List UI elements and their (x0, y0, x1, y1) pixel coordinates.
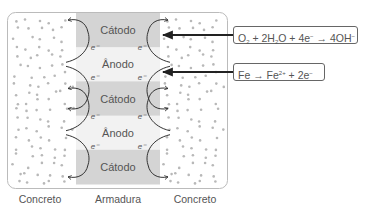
aggregate-dot (192, 27, 195, 30)
aggregate-dot (15, 107, 18, 110)
aggregate-dot (36, 94, 39, 97)
aggregate-dot (40, 136, 43, 139)
aggregate-dot (211, 127, 214, 130)
aggregate-dot (179, 92, 182, 95)
aggregate-dot (215, 103, 218, 106)
aggregate-dot (53, 36, 56, 39)
aggregate-dot (170, 64, 173, 67)
aggregate-dot (17, 103, 20, 106)
cathode-equation: O2 + 2H2O + 4e− → 4OH− (233, 26, 358, 44)
aggregate-dot (61, 175, 64, 178)
aggregate-dot (15, 94, 18, 97)
aggregate-dot (61, 63, 64, 66)
aggregate-dot (53, 162, 56, 165)
aggregate-dot (189, 46, 192, 49)
aggregate-dot (163, 37, 166, 40)
aggregate-dot (39, 118, 42, 121)
aggregate-dot (37, 85, 40, 88)
aggregate-dot (170, 173, 173, 176)
aggregate-dot (43, 76, 46, 79)
aggregate-dot (177, 116, 180, 119)
aggregate-dot (198, 82, 201, 85)
aggregate-dot (59, 55, 62, 58)
aggregate-dot (175, 18, 178, 21)
aggregate-dot (200, 109, 203, 112)
aggregate-dot (177, 181, 180, 184)
aggregate-dot (187, 94, 190, 97)
aggregate-dot (186, 109, 189, 112)
aggregate-dot (190, 38, 193, 41)
aggregate-dot (49, 174, 52, 177)
aggregate-dot (181, 77, 184, 80)
aggregate-dot (187, 54, 190, 57)
aggregate-dot (180, 84, 183, 87)
aggregate-dot (47, 22, 50, 25)
aggregate-dot (199, 180, 202, 183)
aggregate-dot (199, 139, 202, 142)
aggregate-dot (194, 182, 197, 185)
aggregate-dot (47, 98, 50, 101)
aggregate-dot (222, 128, 225, 131)
aggregate-dot (202, 53, 205, 56)
aggregate-dot (198, 120, 201, 123)
aggregate-dot (181, 57, 184, 60)
electron-label: e⁻ (138, 73, 147, 82)
electron-label: e⁻ (138, 43, 147, 52)
aggregate-dot (41, 162, 44, 165)
aggregate-dot (27, 27, 30, 30)
aggregate-dot (15, 136, 18, 139)
electron-label: e⁻ (91, 112, 100, 121)
aggregate-dot (64, 103, 67, 106)
aggregate-dot (212, 49, 215, 52)
aggregate-dot (54, 148, 57, 151)
aggregate-dot (43, 182, 46, 185)
aggregate-dot (32, 155, 35, 158)
cathode-label: Cátodo (100, 161, 135, 173)
aggregate-dot (25, 110, 28, 113)
aggregate-dot (174, 172, 177, 175)
aggregate-dot (36, 98, 39, 101)
aggregate-dot (190, 67, 193, 70)
aggregate-dot (16, 116, 19, 119)
aggregate-dot (169, 180, 172, 183)
aggregate-dot (205, 148, 208, 151)
aggregate-dot (210, 90, 213, 93)
aggregate-dot (164, 82, 167, 85)
aggregate-dot (211, 26, 214, 29)
aggregate-dot (15, 152, 18, 155)
aggregate-dot (178, 27, 181, 30)
aggregate-dot (39, 67, 42, 70)
aggregate-dot (51, 64, 54, 67)
aggregate-dot (63, 180, 66, 183)
aggregate-dot (188, 85, 191, 88)
aggregate-dot (26, 116, 29, 119)
aggregate-dot (212, 175, 215, 178)
cathode-label: Cátodo (100, 24, 135, 36)
aggregate-dot (36, 54, 39, 57)
aggregate-dot (63, 120, 66, 123)
aggregate-dot (216, 137, 219, 140)
aggregate-dot (31, 145, 34, 148)
aggregate-dot (166, 149, 169, 152)
aggregate-dot (212, 164, 215, 167)
aggregate-dot (29, 84, 32, 87)
aggregate-dot (24, 48, 27, 51)
aggregate-dot (49, 109, 52, 112)
aggregate-dot (192, 154, 195, 157)
aggregate-dot (166, 136, 169, 139)
aggregate-dot (182, 36, 185, 39)
anode-label: Ânodo (102, 127, 134, 139)
aggregate-dot (212, 63, 215, 66)
aggregate-dot (190, 20, 193, 23)
aggregate-dot (31, 36, 34, 39)
electron-label: e⁻ (138, 142, 147, 151)
label-armadura: Armadura (86, 193, 150, 205)
cathode-label: Cátodo (100, 93, 135, 105)
aggregate-dot (11, 163, 14, 166)
aggregate-dot (179, 139, 182, 142)
aggregate-dot (47, 125, 50, 128)
aggregate-dot (167, 55, 170, 58)
aggregate-dot (28, 92, 31, 95)
aggregate-dot (175, 48, 178, 51)
aggregate-dot (60, 41, 63, 44)
